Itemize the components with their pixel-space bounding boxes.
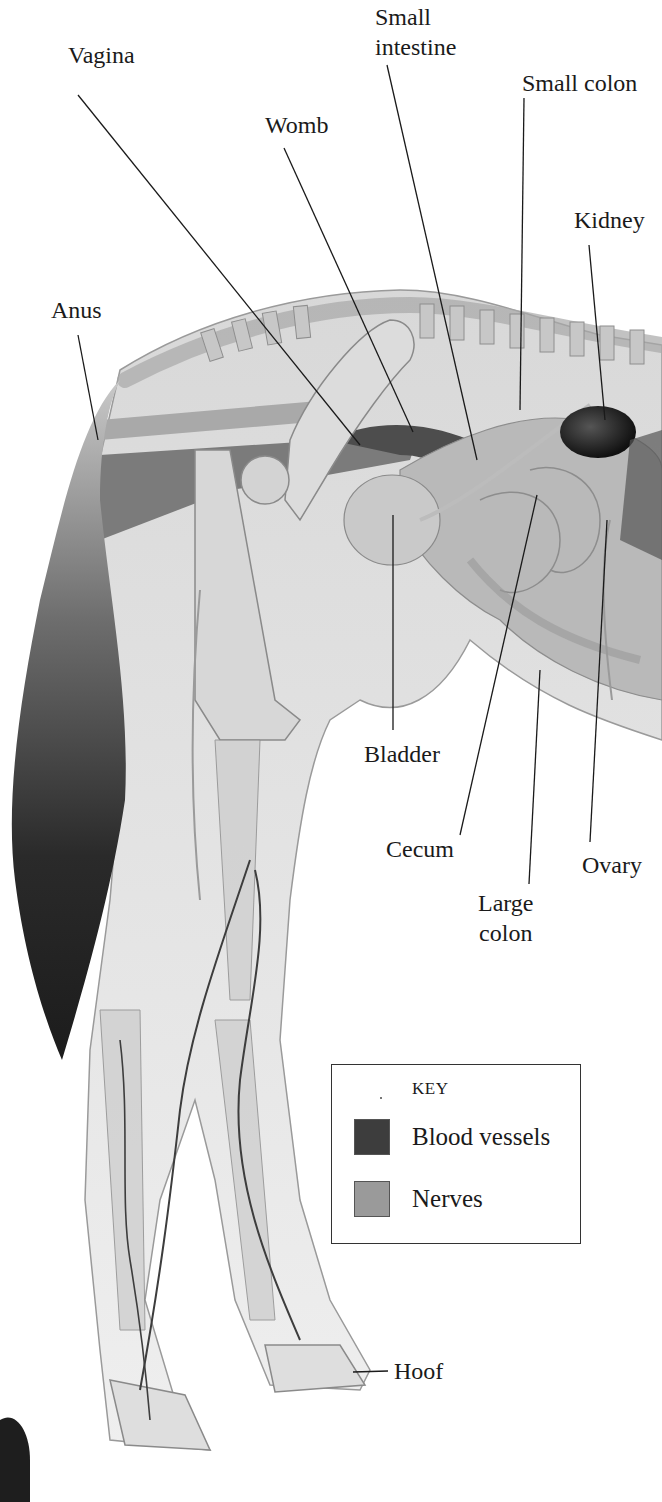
label-large-colon: Large colon	[478, 888, 534, 948]
key-item-blood-vessels: Blood vessels	[354, 1119, 550, 1155]
label-large-colon-line2: colon	[478, 918, 534, 948]
label-kidney: Kidney	[574, 205, 645, 235]
key-label-blood-vessels: Blood vessels	[412, 1123, 550, 1151]
swatch-blood-vessels	[354, 1119, 390, 1155]
label-large-colon-line1: Large	[478, 888, 534, 918]
key-title: KEY	[412, 1079, 448, 1099]
label-anus: Anus	[51, 295, 102, 325]
label-vagina: Vagina	[68, 40, 135, 70]
label-bladder: Bladder	[364, 739, 440, 769]
label-small-colon: Small colon	[522, 68, 637, 98]
key-label-nerves: Nerves	[412, 1185, 483, 1213]
label-small-intestine-line1: Small	[375, 2, 456, 32]
key-item-nerves: Nerves	[354, 1181, 483, 1217]
key-dot-decoration	[380, 1097, 382, 1099]
label-small-intestine: Small intestine	[375, 2, 456, 62]
front-hoof-partial	[0, 1417, 30, 1502]
horse-body	[85, 290, 662, 1450]
label-womb: Womb	[265, 110, 328, 140]
label-ovary: Ovary	[582, 850, 642, 880]
label-hoof: Hoof	[394, 1356, 443, 1386]
legend-key: KEY Blood vessels Nerves	[331, 1064, 581, 1244]
horse-anatomy-illustration	[0, 0, 662, 1502]
label-small-intestine-line2: intestine	[375, 32, 456, 62]
label-cecum: Cecum	[386, 834, 454, 864]
swatch-nerves	[354, 1181, 390, 1217]
